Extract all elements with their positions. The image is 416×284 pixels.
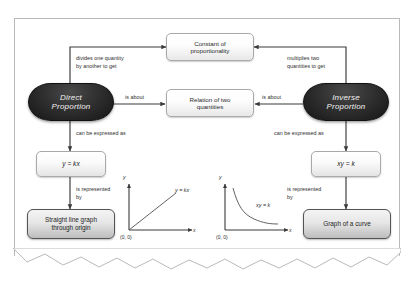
label-represented-left: is represented by [76,186,110,202]
label-multiplies: multiplies two quantities to get [287,55,325,71]
node-constant-of-proportionality[interactable]: Constant of proportionality [166,33,254,61]
node-direct-result-line1: Straight line graph [45,216,97,224]
node-straight-line-graph[interactable]: Straight line graph through origin [27,209,115,239]
node-relation-of-two-quantities[interactable]: Relation of two quantities [166,89,254,117]
node-direct-result-line2: through origin [51,224,90,232]
minigraph-inverse-origin: (0, 0) [216,234,228,240]
node-inverse-line2: Proportion [327,102,366,111]
minigraph-inverse: y x xy = k (0, 0) [216,176,296,242]
minigraph-direct-y-label: y [123,174,126,180]
node-direct-line2: Proportion [52,102,91,111]
node-inverse-line1: Inverse [332,93,360,102]
label-multiplies-line2: quantities to get [287,63,325,71]
minigraph-inverse-svg [216,176,296,242]
minigraph-direct: y x y = kx (0, 0) [120,176,200,242]
label-represented-left-line1: is represented [76,186,110,194]
node-inverse-formula[interactable]: xy = k [311,151,381,177]
label-divides: divides one quantity by another to get [76,55,124,71]
label-divides-line1: divides one quantity [76,55,124,63]
node-direct-formula-text: y = kx [62,160,79,168]
node-constant-line1: Constant of [194,40,226,47]
minigraph-direct-line [129,193,176,230]
minigraph-inverse-equation: xy = k [256,202,270,208]
minigraph-inverse-y-label: y [219,174,222,180]
diagram-canvas: Constant of proportionality Direct Propo… [0,0,416,284]
label-expressed-left: can be expressed as [76,130,126,138]
label-represented-left-line2: by [76,194,110,202]
node-inverse-result-line1: Graph of a curve [323,220,371,228]
label-is-about-left: is about [125,94,144,102]
minigraph-direct-equation: y = kx [175,187,189,193]
node-relation-line2: quantities [197,103,224,110]
label-expressed-right: can be expressed as [274,130,324,138]
minigraph-direct-x-label: x [193,227,196,233]
node-inverse-formula-text: xy = k [337,160,354,168]
node-relation-line1: Relation of two [190,96,231,103]
minigraph-inverse-x-label: x [289,227,292,233]
minigraph-direct-origin: (0, 0) [120,234,132,240]
node-constant-line2: proportionality [191,47,230,54]
node-graph-of-a-curve[interactable]: Graph of a curve [303,209,391,239]
label-is-about-right: is about [262,94,281,102]
node-inverse-proportion[interactable]: Inverse Proportion [303,83,389,121]
label-multiplies-line1: multiplies two [287,55,325,63]
node-direct-line1: Direct [60,93,82,102]
minigraph-direct-svg [120,176,200,242]
node-direct-formula[interactable]: y = kx [36,151,106,177]
node-direct-proportion[interactable]: Direct Proportion [28,83,114,121]
label-divides-line2: by another to get [76,63,124,71]
